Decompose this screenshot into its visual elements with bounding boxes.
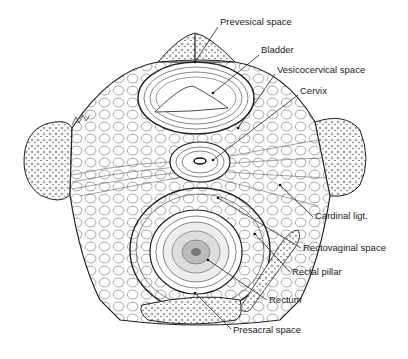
pubic-symphysis [158, 33, 235, 62]
label-cardinal-ligament: Cardinal ligt. [315, 211, 368, 221]
pelvis-drawing [0, 0, 408, 359]
label-rectum: Rectum [269, 295, 302, 305]
label-rectal-pillar: Rectal pillar [292, 267, 342, 277]
label-bladder: Bladder [261, 45, 294, 55]
rectum-shape [150, 210, 242, 294]
anatomical-diagram: Prevesical space Bladder Vesicocervical … [0, 0, 408, 359]
cervix-shape [170, 142, 230, 182]
label-prevesical-space: Prevesical space [220, 17, 292, 27]
label-vesicocervical-space: Vesicocervical space [277, 65, 365, 75]
label-cervix: Cervix [300, 86, 327, 96]
bladder-shape [138, 62, 254, 134]
left-bone [24, 122, 72, 200]
label-rectovaginal-space: Rectovaginal space [303, 243, 386, 253]
label-presacral-space: Presacral space [233, 325, 301, 335]
